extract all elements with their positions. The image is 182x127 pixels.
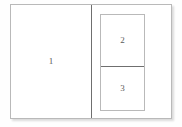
region-1-label: 1 — [49, 57, 54, 66]
region-3[interactable]: 3 — [101, 67, 144, 110]
region-1[interactable]: 1 — [11, 5, 91, 118]
right-column: 2 3 — [92, 5, 171, 118]
screenshot-canvas: 1 2 3 — [0, 0, 182, 127]
outer-frame: 1 2 3 — [10, 4, 172, 119]
region-2[interactable]: 2 — [101, 15, 144, 66]
nested-block: 2 3 — [100, 14, 145, 111]
region-2-label: 2 — [120, 36, 125, 45]
region-3-label: 3 — [120, 84, 125, 93]
